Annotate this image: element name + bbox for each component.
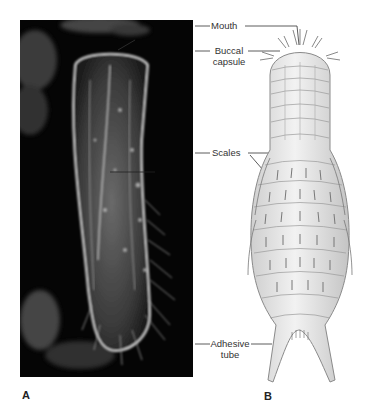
panel-label-b: B — [264, 390, 272, 402]
label-mouth: Mouth — [211, 20, 237, 31]
label-adhesive-tube-line1: Adhesive — [209, 338, 251, 349]
label-buccal-capsule-line2: capsule — [210, 56, 248, 67]
label-scales: Scales — [212, 147, 241, 158]
gastrotrich-illustration — [0, 0, 375, 411]
label-buccal-capsule-line1: Buccal — [211, 45, 247, 56]
label-adhesive-tube-line2: tube — [209, 349, 251, 360]
